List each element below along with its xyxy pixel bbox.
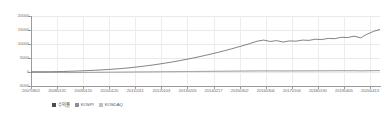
series-line [31, 29, 380, 72]
legend-label: KOSPI [81, 102, 94, 107]
legend-label: KOSDAQ [105, 102, 123, 107]
x-axis-tick-label: 20170106 [283, 89, 301, 94]
x-axis-tick-label: 20140217 [205, 89, 223, 94]
x-axis-tick-label: 20070802 [22, 89, 40, 94]
x-axis-tick-label: 20100120 [100, 89, 118, 94]
x-axis-tick-label: 20080131 [48, 89, 66, 94]
x-axis-tick-label: 20130205 [179, 89, 197, 94]
legend-swatch-icon [75, 103, 79, 107]
y-axis-labels: 20000150001000050000-5000 [0, 16, 29, 87]
x-axis-labels: 2007080220080131200901202010012020110111… [31, 89, 383, 97]
chart-legend: 수익률KOSPIKOSDAQ [52, 102, 123, 107]
legend-swatch-icon [52, 103, 56, 107]
legend-swatch-icon [99, 103, 103, 107]
series-lines [31, 16, 380, 86]
legend-item[interactable]: KOSDAQ [99, 102, 123, 107]
x-axis-tick-label: 20090120 [74, 89, 92, 94]
legend-item[interactable]: KOSPI [75, 102, 94, 107]
x-axis-tick-label: 20190405 [335, 89, 353, 94]
legend-label: 수익률 [58, 102, 70, 107]
x-axis-line [31, 86, 381, 87]
x-axis-tick-label: 20160304 [257, 89, 275, 94]
chart-container: 20000150001000050000-5000 20070802200801… [0, 0, 390, 117]
x-axis-tick-label: 20200413 [361, 89, 379, 94]
x-axis-tick-label: 20180130 [309, 89, 327, 94]
legend-item[interactable]: 수익률 [52, 102, 70, 107]
x-axis-tick-label: 20110111 [127, 89, 144, 94]
x-axis-tick-label: 20150302 [231, 89, 249, 94]
x-axis-tick-label: 20120103 [152, 89, 170, 94]
